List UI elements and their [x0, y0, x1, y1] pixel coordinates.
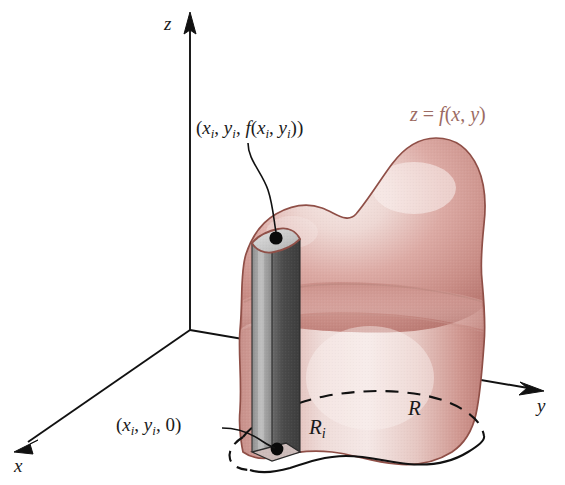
- tp-fy: y: [279, 117, 287, 138]
- surface-eq-equals: =: [418, 103, 439, 125]
- sample-column-prism: [252, 228, 300, 461]
- base-sample-point-label: (xi, yi, 0): [116, 415, 181, 438]
- surface-eq-comma: ,: [460, 103, 470, 125]
- bp-comma-2: ,: [156, 414, 166, 435]
- column-left-highlight: [258, 248, 264, 455]
- x-axis-label: x: [14, 456, 22, 475]
- surface-equation-label: z = f(x, y): [410, 104, 486, 124]
- y-axis-arrowhead: [519, 382, 544, 395]
- subregion-Ri-label: Ri: [309, 417, 326, 440]
- bp-close-paren: ): [175, 414, 181, 435]
- x-axis-arrowhead: [14, 440, 38, 454]
- y-axis-label: y: [537, 396, 545, 415]
- tp-comma-2: ,: [236, 117, 246, 138]
- subregion-R: R: [309, 415, 322, 439]
- surface-eq-close-paren: ): [479, 103, 486, 125]
- sample-point-top-dot: [269, 231, 282, 244]
- tp-comma-1: ,: [214, 117, 224, 138]
- bp-comma-1: ,: [134, 414, 144, 435]
- sample-point-base-dot: [271, 443, 284, 456]
- tp-close-parens: )): [291, 117, 304, 138]
- surface-eq-x: x: [451, 103, 460, 125]
- diagram-svg: [0, 0, 565, 485]
- subregion-R-subscript: i: [322, 425, 326, 441]
- bp-x: x: [122, 414, 130, 435]
- z-axis-label: z: [164, 14, 171, 33]
- top-sample-point-label: (xi, yi, f(xi, yi)): [196, 118, 303, 141]
- figure-canvas: z y x z = f(x, y) (xi, yi, f(xi, yi)) (x…: [0, 0, 565, 485]
- surface-eq-y: y: [470, 103, 479, 125]
- region-R-label: R: [408, 398, 421, 419]
- tp-comma-3: ,: [269, 117, 279, 138]
- surface-eq-z: z: [410, 103, 418, 125]
- bp-zero: 0: [165, 414, 175, 435]
- tp-x: x: [202, 117, 210, 138]
